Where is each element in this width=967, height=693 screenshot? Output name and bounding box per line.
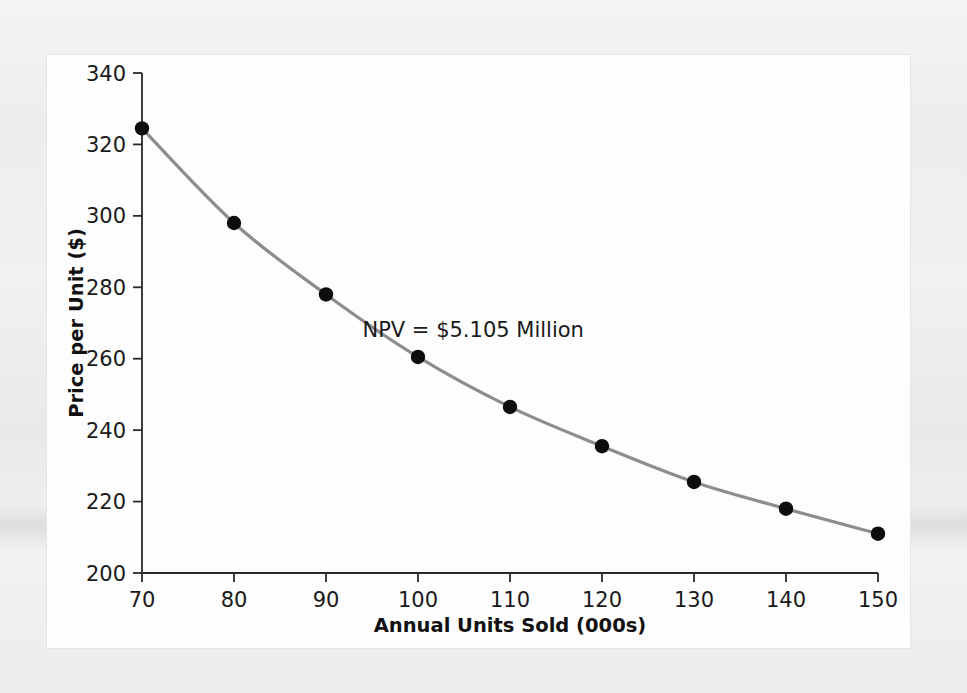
x-tick-label: 130 — [674, 588, 714, 612]
npv-annotation-label: NPV = $5.105 Million — [362, 318, 583, 342]
x-tick-label: 140 — [766, 588, 806, 612]
data-point-marker — [135, 121, 149, 135]
figure-panel: 200220240260280300320340 708090100110120… — [47, 55, 910, 648]
x-tick-label: 90 — [313, 588, 340, 612]
x-tick-label: 80 — [221, 588, 248, 612]
chart-plot-area: 200220240260280300320340 708090100110120… — [47, 55, 910, 648]
y-tick-label: 320 — [86, 133, 126, 157]
x-axis-tick-labels: 708090100110120130140150 — [129, 588, 898, 612]
data-point-marker — [319, 287, 333, 301]
y-axis-title: Price per Unit ($) — [65, 228, 88, 418]
y-tick-label: 300 — [86, 204, 126, 228]
npv-price-vs-units-line-chart: 200220240260280300320340 708090100110120… — [47, 55, 910, 648]
x-tick-label: 70 — [129, 588, 156, 612]
x-tick-label: 120 — [582, 588, 622, 612]
data-point-marker — [503, 400, 517, 414]
y-tick-label: 260 — [86, 347, 126, 371]
data-point-marker — [595, 439, 609, 453]
x-axis-title: Annual Units Sold (000s) — [374, 614, 647, 637]
y-tick-label: 280 — [86, 276, 126, 300]
x-tick-label: 100 — [398, 588, 438, 612]
x-axis-ticks — [142, 573, 878, 582]
data-point-marker — [687, 475, 701, 489]
data-point-marker — [871, 527, 885, 541]
x-tick-label: 150 — [858, 588, 898, 612]
y-tick-label: 200 — [86, 562, 126, 586]
y-tick-label: 340 — [86, 62, 126, 86]
data-point-marker — [411, 350, 425, 364]
y-tick-label: 240 — [86, 419, 126, 443]
data-point-marker — [779, 502, 793, 516]
y-tick-label: 220 — [86, 490, 126, 514]
x-tick-label: 110 — [490, 588, 530, 612]
y-axis-tick-labels: 200220240260280300320340 — [86, 62, 126, 586]
data-point-marker — [227, 216, 241, 230]
y-axis-ticks — [133, 73, 142, 573]
